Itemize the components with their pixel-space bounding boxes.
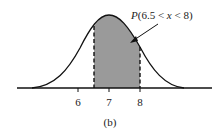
figure-caption: (b)	[104, 116, 117, 129]
normal-curve-figure: 6 7 8 P(6.5 < x < 8) (b)	[0, 0, 221, 132]
annotation-arrow	[134, 24, 158, 40]
annotation-end: < 8)	[172, 9, 193, 22]
tick-label-6: 6	[75, 96, 81, 108]
tick-label-8: 8	[137, 96, 143, 108]
shaded-probability-region	[94, 15, 140, 88]
probability-annotation: P(6.5 < x < 8)	[130, 9, 193, 22]
annotation-rest: (6.5 <	[138, 9, 167, 22]
tick-label-7: 7	[106, 96, 112, 108]
